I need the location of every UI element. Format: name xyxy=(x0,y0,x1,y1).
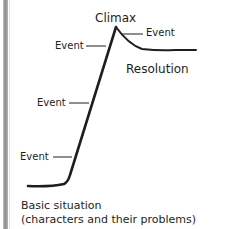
plot-curve xyxy=(0,0,228,229)
basic-situation-sublabel: (characters and their problems) xyxy=(21,214,196,225)
event-lower-label: Event xyxy=(20,152,49,162)
basic-situation-label: Basic situation xyxy=(21,200,102,211)
event-right-label: Event xyxy=(146,28,175,38)
event-upper-label: Event xyxy=(55,41,84,51)
resolution-label: Resolution xyxy=(126,63,189,75)
event-middle-label: Event xyxy=(37,98,66,108)
climax-label: Climax xyxy=(95,12,136,24)
